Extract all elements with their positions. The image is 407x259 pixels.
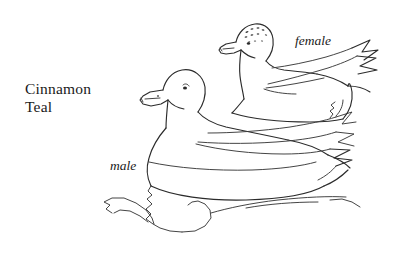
male-wing-tip-1 — [336, 112, 356, 124]
female-neck-front — [240, 50, 244, 99]
male-bill-line — [145, 98, 160, 99]
water-wave-breast — [146, 186, 182, 232]
water-splash-right — [330, 199, 360, 207]
female-wing-upper — [272, 48, 352, 68]
male-annotation-label: male — [110, 158, 136, 174]
water-wave-left-inner — [114, 210, 148, 222]
male-tail-detail — [318, 166, 336, 180]
species-caption: CinnamonTeal — [25, 80, 91, 117]
male-neck-front — [166, 100, 168, 128]
illustration-plate: CinnamonTeal male female — [0, 0, 407, 259]
female-eye — [247, 42, 250, 45]
female-crown-stipple — [244, 27, 267, 43]
female-wing-edge — [264, 89, 296, 94]
female-annotation-label: female — [295, 33, 331, 49]
duck-pair-illustration — [0, 0, 407, 259]
male-eye-brow — [183, 84, 189, 86]
female-back — [317, 74, 348, 86]
female-head — [236, 24, 273, 61]
water-wave-tail — [211, 197, 346, 213]
female-tail-feather-2 — [357, 56, 377, 74]
male-wing-mid — [198, 132, 336, 143]
female-bill-line — [223, 48, 234, 49]
male-nostril — [157, 95, 159, 97]
water-wave-right — [182, 201, 211, 232]
male-cheek — [168, 100, 184, 109]
male-wing-tip-2 — [336, 132, 354, 146]
male-breast — [147, 128, 166, 186]
species-caption-line-1: Cinnamon — [25, 80, 91, 97]
male-eye — [183, 86, 187, 89]
female-breast — [232, 99, 244, 113]
female-rump-detail — [336, 100, 343, 116]
male-head — [163, 70, 205, 112]
female-bill-tip — [220, 48, 222, 51]
male-tail-feather-2 — [324, 170, 348, 186]
female-cheek — [241, 50, 255, 58]
female-waterline — [232, 113, 343, 122]
male-wing-upper — [208, 117, 336, 133]
male-duck — [140, 70, 356, 200]
female-vent-squiggle — [330, 102, 335, 118]
species-caption-line-2: Teal — [25, 98, 91, 116]
water-line — [104, 186, 360, 232]
male-flank-line — [149, 162, 316, 170]
female-wing-lower — [266, 78, 324, 88]
